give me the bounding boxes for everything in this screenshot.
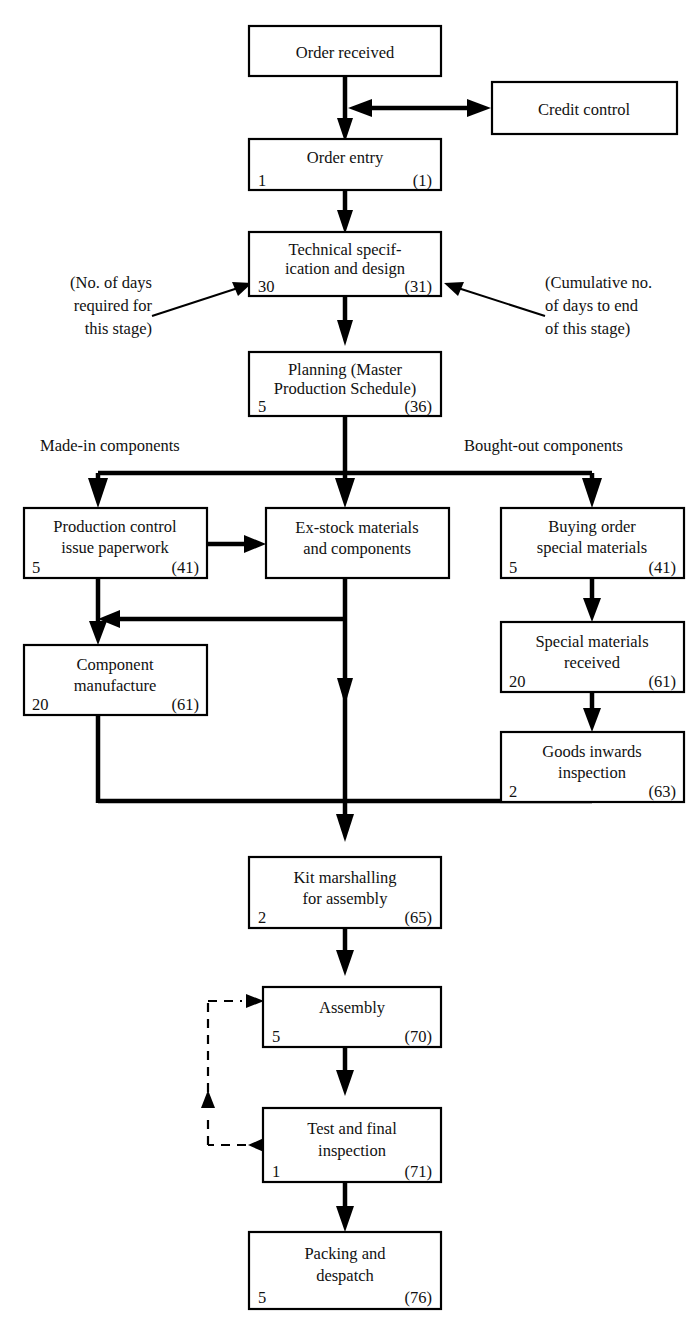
node-ex-stock-line2: and components xyxy=(303,539,411,558)
node-buying-order-line2: special materials xyxy=(537,538,647,557)
node-buying-order-days: 5 xyxy=(509,558,517,577)
node-special-materials-days: 20 xyxy=(509,672,526,691)
node-technical-spec-line2: ication and design xyxy=(285,259,405,278)
order-flow-diagram: Order received Credit control Order entr… xyxy=(0,0,699,1331)
node-special-materials-line1: Special materials xyxy=(535,632,648,651)
right-note-line3: of this stage) xyxy=(545,319,630,338)
connector-technical-spec-to-planning xyxy=(337,296,353,346)
node-goods-inwards-cumulative: (63) xyxy=(649,782,677,801)
node-buying-order-cumulative: (41) xyxy=(649,558,677,577)
connector-assembly-to-test xyxy=(336,1047,354,1096)
node-credit-control-line1: Credit control xyxy=(538,100,631,119)
node-test-days: 1 xyxy=(272,1162,280,1181)
node-assembly[interactable]: Assembly 5 (70) xyxy=(263,987,441,1047)
left-note-line3: this stage) xyxy=(85,319,152,338)
node-goods-inwards-days: 2 xyxy=(509,782,517,801)
node-packing-days: 5 xyxy=(258,1288,266,1307)
node-ex-stock-materials-and-components[interactable]: Ex-stock materials and components xyxy=(266,508,449,578)
node-planning-master-production-schedule[interactable]: Planning (Master Production Schedule) 5 … xyxy=(249,352,441,416)
node-special-materials-received[interactable]: Special materials received 20 (61) xyxy=(501,622,684,692)
node-kit-marshalling-line1: Kit marshalling xyxy=(293,868,396,887)
node-order-received-line1: Order received xyxy=(296,43,395,62)
node-kit-marshalling-line2: for assembly xyxy=(303,889,389,908)
connector-order-entry-to-technical-spec xyxy=(337,190,353,234)
node-production-control-days: 5 xyxy=(32,558,40,577)
annotation-days-required-note: (No. of days required for this stage) xyxy=(70,273,153,338)
node-component-manufacture-line2: manufacture xyxy=(74,676,156,695)
node-technical-specification-and-design[interactable]: Technical specif- ication and design 30 … xyxy=(249,232,441,296)
node-planning-cumulative: (36) xyxy=(405,397,433,416)
branch-label-made-in: Made-in components xyxy=(40,436,180,455)
node-planning-line1: Planning (Master xyxy=(288,360,403,379)
connector-buying-order-to-special-materials xyxy=(583,578,601,622)
node-component-manufacture-days: 20 xyxy=(32,695,49,714)
leader-left-note xyxy=(152,282,252,316)
node-production-control-issue-paperwork[interactable]: Production control issue paperwork 5 (41… xyxy=(24,508,207,578)
node-goods-inwards-line1: Goods inwards xyxy=(542,742,641,761)
connector-production-control-to-component-manufacture xyxy=(89,578,107,645)
node-assembly-line1: Assembly xyxy=(319,998,386,1017)
flowchart-page: Order received Credit control Order entr… xyxy=(0,0,699,1331)
node-buying-order-line1: Buying order xyxy=(548,517,636,536)
node-production-control-line1: Production control xyxy=(53,517,177,536)
connector-kit-marshalling-to-assembly xyxy=(336,928,354,976)
node-planning-days: 5 xyxy=(258,397,266,416)
connector-test-to-packing xyxy=(336,1182,354,1232)
node-goods-inwards-line2: inspection xyxy=(558,763,626,782)
connector-rework-loop-dashed xyxy=(201,994,264,1152)
node-goods-inwards-inspection[interactable]: Goods inwards inspection 2 (63) xyxy=(501,732,684,802)
node-assembly-cumulative: (70) xyxy=(405,1027,433,1046)
connector-order-received-to-order-entry xyxy=(337,76,353,142)
node-packing-line1: Packing and xyxy=(304,1244,386,1263)
node-special-materials-line2: received xyxy=(564,653,621,672)
node-order-entry[interactable]: Order entry 1 (1) xyxy=(249,139,441,190)
left-note-line1: (No. of days xyxy=(70,273,152,292)
node-test-line2: inspection xyxy=(318,1141,386,1160)
node-planning-line2: Production Schedule) xyxy=(274,379,417,398)
node-kit-marshalling-for-assembly[interactable]: Kit marshalling for assembly 2 (65) xyxy=(249,857,441,928)
node-kit-marshalling-days: 2 xyxy=(258,908,266,927)
node-technical-spec-line1: Technical specif- xyxy=(289,240,402,259)
node-order-entry-cumulative: (1) xyxy=(413,171,432,190)
node-technical-spec-cumulative: (31) xyxy=(405,277,433,296)
node-packing-cumulative: (76) xyxy=(405,1288,433,1307)
connector-production-control-to-ex-stock xyxy=(207,535,266,553)
branch-label-bought-out: Bought-out components xyxy=(464,436,623,455)
node-component-manufacture-line1: Component xyxy=(77,655,154,674)
node-component-manufacture[interactable]: Component manufacture 20 (61) xyxy=(24,645,207,715)
node-ex-stock-line1: Ex-stock materials xyxy=(295,518,418,537)
node-packing-and-despatch[interactable]: Packing and despatch 5 (76) xyxy=(249,1232,441,1309)
right-note-line2: of days to end xyxy=(545,296,639,315)
node-packing-line2: despatch xyxy=(316,1266,374,1285)
node-test-cumulative: (71) xyxy=(405,1162,433,1181)
connector-credit-control-bidirectional xyxy=(348,99,491,117)
node-technical-spec-days: 30 xyxy=(258,277,275,296)
node-production-control-cumulative: (41) xyxy=(172,558,200,577)
node-order-entry-line1: Order entry xyxy=(307,148,384,167)
node-test-line1: Test and final xyxy=(307,1119,397,1138)
node-production-control-line2: issue paperwork xyxy=(61,538,169,557)
annotation-cumulative-days-note: (Cumulative no. of days to end of this s… xyxy=(545,273,652,338)
node-special-materials-cumulative: (61) xyxy=(649,672,677,691)
node-buying-order-special-materials[interactable]: Buying order special materials 5 (41) xyxy=(501,508,684,578)
node-component-manufacture-cumulative: (61) xyxy=(172,695,200,714)
node-assembly-days: 5 xyxy=(272,1027,280,1046)
connector-special-materials-to-goods-inwards xyxy=(583,692,601,732)
node-order-received[interactable]: Order received xyxy=(249,26,441,76)
node-order-entry-days: 1 xyxy=(258,171,266,190)
left-note-line2: required for xyxy=(74,296,153,315)
leader-right-note xyxy=(444,282,545,316)
node-credit-control[interactable]: Credit control xyxy=(492,82,677,134)
node-test-and-final-inspection[interactable]: Test and final inspection 1 (71) xyxy=(263,1108,441,1182)
right-note-line1: (Cumulative no. xyxy=(545,273,652,292)
connector-planning-to-branch-bus xyxy=(88,416,602,508)
node-kit-marshalling-cumulative: (65) xyxy=(405,908,433,927)
